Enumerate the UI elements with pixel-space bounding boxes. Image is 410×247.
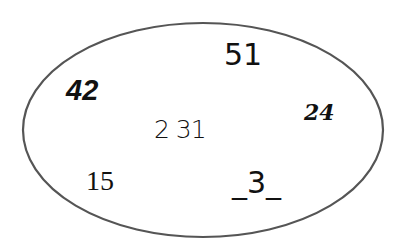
venn-set-diagram: 51 42 24 2 31 15 _3_ [0, 0, 410, 247]
set-element-3: _3_ [232, 168, 281, 198]
set-element-15: 15 [86, 167, 114, 195]
set-element-2-31: 2 31 [154, 117, 206, 142]
set-element-24: 24 [304, 101, 335, 123]
set-element-42: 42 [66, 76, 98, 105]
set-element-51: 51 [224, 40, 262, 70]
